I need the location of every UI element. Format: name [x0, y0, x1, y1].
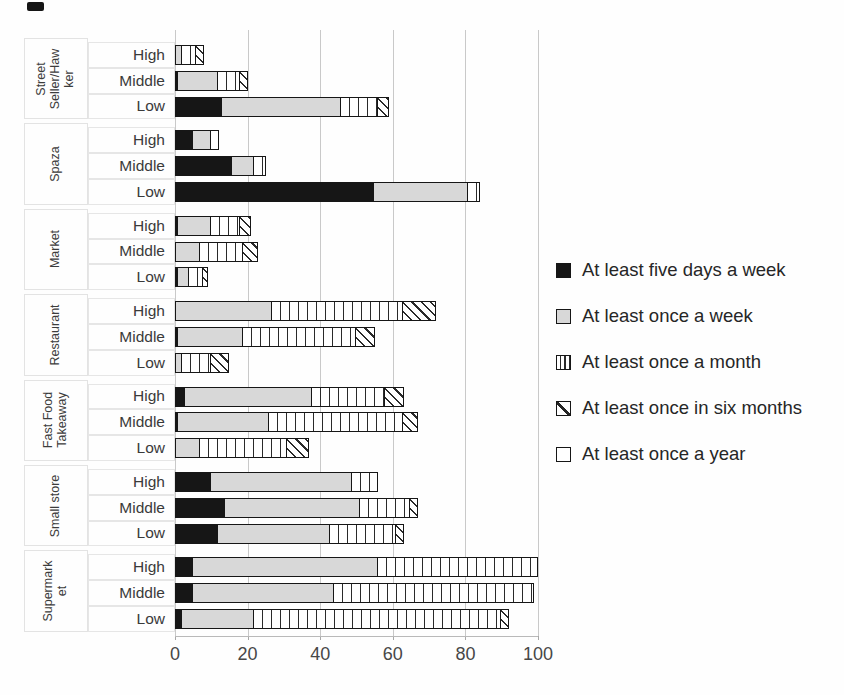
segment-six-months — [355, 327, 375, 347]
row-label: Low — [137, 354, 174, 372]
x-axis-line — [175, 636, 538, 637]
segment-once-week — [231, 156, 254, 176]
category-label-box: Small store — [24, 465, 88, 546]
x-gridline — [538, 30, 539, 636]
legend-label: At least five days a week — [582, 259, 786, 281]
stacked-bar — [175, 472, 380, 492]
row-label: High — [133, 558, 174, 576]
stacked-bar — [175, 97, 391, 117]
row-label-box: Low — [88, 435, 175, 461]
row-label: Low — [137, 524, 174, 542]
stacked-bar — [175, 557, 540, 577]
segment-six-months — [210, 353, 230, 373]
legend-swatch-five-icon — [556, 263, 571, 278]
category-label: Supermarket — [42, 558, 70, 624]
segment-six-months — [242, 242, 258, 262]
row-label: Low — [137, 610, 174, 628]
legend-item: At least once a week — [556, 293, 802, 339]
segment-once-month — [199, 242, 244, 262]
segment-five-days — [175, 524, 219, 544]
stacked-bar — [175, 267, 210, 287]
row-label: Middle — [119, 499, 174, 517]
row-label-box: Middle — [88, 495, 175, 521]
segment-once-week — [175, 301, 273, 321]
segment-once-month — [467, 182, 479, 202]
segment-once-week — [192, 557, 379, 577]
x-tick-label: 100 — [516, 644, 560, 665]
segment-once-month — [351, 472, 378, 492]
segment-five-days — [175, 97, 222, 117]
row-label: High — [133, 217, 174, 235]
segment-once-week — [192, 130, 212, 150]
segment-once-week — [177, 327, 244, 347]
row-label-box: Low — [88, 94, 175, 120]
row-label: Low — [137, 97, 174, 115]
row-label-box: High — [88, 469, 175, 495]
stacked-bar — [175, 130, 221, 150]
row-label-box: Middle — [88, 409, 175, 435]
category-label-box: Supermarket — [24, 550, 88, 631]
row-label-box: Middle — [88, 580, 175, 606]
x-gridline — [465, 30, 466, 636]
segment-five-days — [175, 583, 193, 603]
segment-once-month — [253, 609, 501, 629]
x-tick-label: 20 — [226, 644, 270, 665]
legend-item: At least once a month — [556, 339, 802, 385]
row-label: Middle — [119, 413, 174, 431]
segment-once-week — [181, 609, 255, 629]
x-tick-mark — [538, 636, 539, 640]
row-label-box: High — [88, 42, 175, 68]
segment-six-months — [377, 97, 389, 117]
row-label-box: High — [88, 213, 175, 239]
segment-once-month — [359, 498, 411, 518]
row-label-box: High — [88, 554, 175, 580]
row-label: Low — [137, 439, 174, 457]
row-label: Low — [137, 183, 174, 201]
row-label: High — [133, 46, 174, 64]
segment-six-months — [239, 71, 248, 91]
legend-label: At least once a week — [582, 305, 753, 327]
row-label: Middle — [119, 584, 174, 602]
row-label-box: High — [88, 298, 175, 324]
row-label: High — [133, 387, 174, 405]
stacked-bar — [175, 216, 253, 236]
stacked-bar — [175, 156, 268, 176]
row-label: Middle — [119, 72, 174, 90]
segment-six-months — [500, 609, 509, 629]
segment-six-months — [409, 498, 418, 518]
row-label-box: Low — [88, 179, 175, 205]
segment-once-week — [175, 242, 200, 262]
segment-six-months — [195, 45, 204, 65]
category-label-box: Market — [24, 209, 88, 290]
category-label: Market — [49, 216, 63, 282]
segment-six-months — [395, 524, 404, 544]
segment-five-days — [175, 472, 211, 492]
row-label: Low — [137, 268, 174, 286]
segment-once-week — [373, 182, 469, 202]
segment-once-month — [271, 301, 403, 321]
row-label: Middle — [119, 242, 174, 260]
stacked-bar — [175, 387, 406, 407]
segment-once-week — [224, 498, 360, 518]
segment-once-month — [377, 557, 538, 577]
segment-once-week — [177, 412, 269, 432]
category-label-box: Restaurant — [24, 294, 88, 375]
segment-once-week — [184, 387, 313, 407]
legend-swatch-six-icon — [556, 401, 571, 416]
row-label-box: Middle — [88, 239, 175, 265]
segment-once-month — [181, 353, 212, 373]
row-label-box: High — [88, 127, 175, 153]
stacked-bar — [175, 438, 311, 458]
x-tick-label: 60 — [371, 644, 415, 665]
row-label: High — [133, 131, 174, 149]
chart-legend: At least five days a weekAt least once a… — [556, 247, 802, 477]
segment-six-months — [402, 412, 418, 432]
category-label: Spaza — [49, 131, 63, 197]
row-label-box: Low — [88, 350, 175, 376]
segment-five-days — [175, 130, 193, 150]
stacked-bar — [175, 71, 250, 91]
category-label: Restaurant — [49, 302, 63, 368]
stacked-bar — [175, 609, 511, 629]
segment-once-week — [217, 524, 331, 544]
segment-once-month — [199, 438, 288, 458]
